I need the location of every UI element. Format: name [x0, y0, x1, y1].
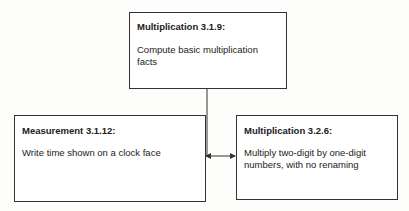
node-title: Measurement 3.1.12:: [22, 125, 198, 136]
node-description: Write time shown on a clock face: [22, 147, 162, 159]
node-description: Compute basic multiplication facts: [137, 44, 267, 68]
node-title: Multiplication 3.1.9:: [137, 21, 279, 32]
node-multiplication-3-2-6: Multiplication 3.2.6: Multiply two-digit…: [236, 115, 398, 200]
node-description: Multiply two-digit by one-digit numbers,…: [244, 147, 394, 171]
node-multiplication-3-1-9: Multiplication 3.1.9: Compute basic mult…: [129, 12, 287, 89]
node-title: Multiplication 3.2.6:: [244, 125, 390, 136]
node-measurement-3-1-12: Measurement 3.1.12: Write time shown on …: [14, 115, 206, 202]
